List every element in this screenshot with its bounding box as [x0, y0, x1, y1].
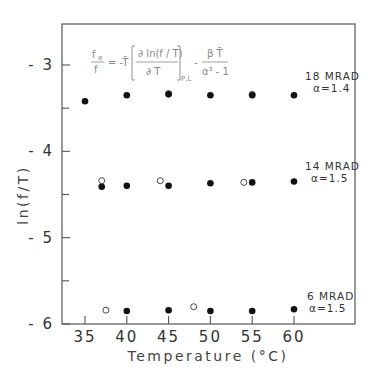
formula-lhs-den: f [94, 64, 98, 75]
filled-point [249, 179, 256, 186]
x-tick-label: 40 [115, 328, 138, 346]
formula-frac2-num: β T̄ [207, 47, 224, 59]
x-tick-label: 50 [199, 328, 222, 346]
filled-point [207, 308, 214, 315]
series-label-alpha: α=1.4 [313, 82, 350, 94]
open-point [99, 178, 105, 184]
x-tick-label: 60 [282, 328, 305, 346]
filled-point [207, 92, 214, 99]
series-label-alpha: α=1.5 [309, 302, 346, 314]
formula-annotation: f e f = -T̄ ∂ ln(f / T) ∂ T P,L - β T̄ α… [91, 46, 229, 83]
formula-minus: - [194, 57, 198, 68]
y-tick-label: - 5 [28, 229, 54, 247]
formula-lhs-num: f [92, 49, 96, 60]
filled-point [165, 91, 172, 98]
open-point [103, 307, 109, 313]
filled-point [98, 183, 105, 190]
formula-frac2-den: α³ - 1 [202, 66, 229, 77]
x-tick-label: 35 [73, 328, 96, 346]
x-tick-label: 55 [241, 328, 264, 346]
filled-point [124, 308, 131, 315]
axis-ticks [62, 65, 294, 324]
y-tick-label: - 4 [28, 142, 54, 160]
x-tick-label: 45 [157, 328, 180, 346]
chart: f e f = -T̄ ∂ ln(f / T) ∂ T P,L - β T̄ α… [0, 0, 379, 381]
filled-point [124, 92, 131, 99]
series-label-name: 6 MRAD [307, 290, 354, 302]
y-axis-label: ln(f/T) [15, 165, 31, 224]
series-labels: 18 MRADα=1.414 MRADα=1.56 MRADα=1.5 [305, 70, 360, 314]
filled-point [82, 98, 89, 105]
formula-frac-den: ∂ T [146, 66, 161, 77]
filled-point [249, 308, 256, 315]
series-label-name: 18 MRAD [305, 70, 360, 82]
axis-tick-labels: 354045505560- 3- 4- 5- 6 [28, 56, 305, 346]
formula-subscript: P,L [181, 75, 191, 83]
formula-frac-num: ∂ ln(f / T) [138, 48, 183, 59]
open-point [191, 304, 197, 310]
filled-point [124, 183, 131, 190]
formula-lhs-num-sub: e [98, 54, 102, 62]
filled-point [207, 180, 214, 187]
filled-point [249, 92, 256, 99]
open-point [157, 178, 163, 184]
filled-point [291, 306, 298, 313]
y-tick-label: - 6 [28, 315, 54, 333]
filled-point [291, 178, 298, 185]
filled-point [291, 92, 298, 99]
formula-eq: = -T̄ [108, 56, 129, 68]
open-point [241, 179, 247, 185]
filled-point [165, 307, 172, 314]
y-tick-label: - 3 [28, 56, 54, 74]
data-points [82, 90, 298, 314]
series-label-alpha: α=1.5 [311, 172, 348, 184]
x-axis-label: Temperature (°C) [127, 348, 289, 364]
filled-point [165, 183, 172, 190]
series-label-name: 14 MRAD [305, 160, 360, 172]
